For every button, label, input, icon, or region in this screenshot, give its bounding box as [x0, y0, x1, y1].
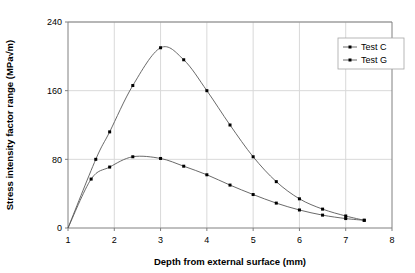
- x-tick-label: 8: [389, 235, 394, 245]
- x-axis-title: Depth from external surface (mm): [154, 256, 306, 267]
- data-point-marker: [108, 166, 111, 169]
- series-line-test-c: [68, 47, 364, 228]
- data-point-marker: [108, 130, 111, 133]
- data-point-marker: [275, 180, 278, 183]
- data-point-marker: [131, 84, 134, 87]
- data-point-marker: [182, 58, 185, 61]
- x-tick-label: 3: [158, 235, 163, 245]
- data-point-marker: [344, 217, 347, 220]
- data-point-marker: [182, 165, 185, 168]
- data-point-marker: [321, 214, 324, 217]
- y-tick-label: 80: [52, 155, 62, 165]
- data-point-marker: [298, 197, 301, 200]
- data-point-marker: [131, 155, 134, 158]
- legend-marker: [349, 59, 352, 62]
- y-tick-label: 240: [47, 17, 62, 27]
- data-point-marker: [229, 124, 232, 127]
- stress-intensity-line-chart: 08016024012345678Depth from external sur…: [0, 0, 415, 273]
- data-point-marker: [321, 208, 324, 211]
- data-point-marker: [298, 208, 301, 211]
- data-point-marker: [252, 193, 255, 196]
- y-axis-title: Stress intensity factor range (MPa√m): [4, 40, 15, 210]
- x-tick-label: 4: [204, 235, 209, 245]
- data-point-marker: [275, 202, 278, 205]
- data-point-marker: [159, 46, 162, 49]
- x-tick-label: 2: [112, 235, 117, 245]
- data-point-marker: [205, 173, 208, 176]
- data-point-marker: [159, 157, 162, 160]
- data-point-marker: [344, 214, 347, 217]
- x-tick-label: 7: [343, 235, 348, 245]
- y-tick-label: 0: [57, 223, 62, 233]
- data-point-marker: [229, 184, 232, 187]
- data-point-marker: [252, 155, 255, 158]
- data-point-marker: [94, 158, 97, 161]
- y-tick-label: 160: [47, 86, 62, 96]
- legend-label: Test C: [361, 42, 387, 52]
- data-point-marker: [363, 219, 366, 222]
- legend-marker: [349, 46, 352, 49]
- x-tick-label: 5: [251, 235, 256, 245]
- legend-label: Test G: [361, 55, 387, 65]
- chart-container: 08016024012345678Depth from external sur…: [0, 0, 415, 273]
- data-point-marker: [205, 89, 208, 92]
- x-tick-label: 6: [297, 235, 302, 245]
- series-line-test-g: [68, 156, 364, 228]
- x-tick-label: 1: [65, 235, 70, 245]
- data-point-marker: [90, 178, 93, 181]
